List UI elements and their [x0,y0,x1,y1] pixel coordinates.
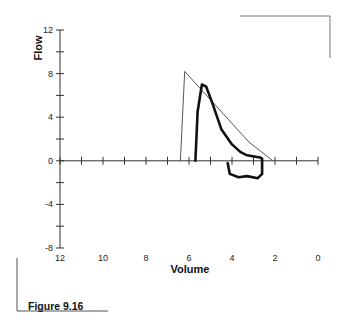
x-tick-label: 0 [315,253,320,263]
series-measured [195,85,262,179]
x-axis-title: Volume [171,263,210,275]
y-tick-label: 8 [48,69,53,79]
y-axis-title: Flow [32,35,44,60]
series [180,71,273,178]
x-tick-label: 2 [272,253,277,263]
y-tick-label: 4 [48,112,53,122]
y-tick-label: -8 [45,243,53,253]
flow-volume-chart: 12840-4-8121086420 Volume Flow [0,0,348,330]
figure-caption: Figure 9.16 [28,300,83,312]
x-tick-label: 4 [229,253,234,263]
y-tick-label: 12 [43,25,53,35]
x-tick-label: 8 [143,253,148,263]
x-tick-label: 12 [55,253,65,263]
series-predicted [180,71,273,160]
x-tick-label: 6 [186,253,191,263]
x-tick-label: 10 [98,253,108,263]
y-tick-label: -4 [45,199,53,209]
y-tick-label: 0 [48,156,53,166]
frame-corner-top-right [240,16,330,58]
axes: 12840-4-8121086420 [43,25,321,263]
